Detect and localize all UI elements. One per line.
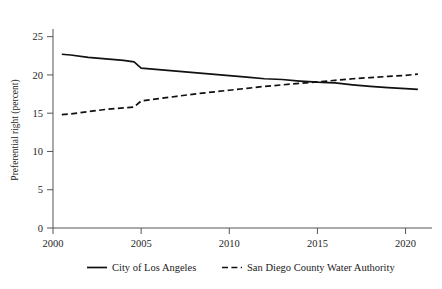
y-tick-label: 10 xyxy=(33,146,44,157)
y-axis-title-group: Preferential right (percent) xyxy=(10,79,21,180)
x-tick-label: 2010 xyxy=(219,238,240,249)
series-line-solid xyxy=(62,54,418,89)
x-tick-label: 2015 xyxy=(307,238,328,249)
y-tick-label: 5 xyxy=(38,184,43,195)
y-axis-ticks: 0510152025 xyxy=(33,31,54,233)
x-tick-label: 2000 xyxy=(43,238,64,249)
x-tick-label: 2005 xyxy=(131,238,152,249)
y-axis-title: Preferential right (percent) xyxy=(10,79,21,180)
x-tick-label: 2020 xyxy=(395,238,416,249)
legend-label: San Diego County Water Authority xyxy=(247,262,395,273)
y-tick-label: 15 xyxy=(33,108,44,119)
y-tick-label: 0 xyxy=(38,223,43,234)
legend-label: City of Los Angeles xyxy=(112,262,196,273)
x-axis-ticks: 20002005201020152020 xyxy=(43,228,417,249)
series-line-dashed xyxy=(62,74,418,115)
series-group xyxy=(62,54,418,114)
chart-canvas: Preferential right (percent) 0510152025 … xyxy=(0,0,442,289)
line-chart: Preferential right (percent) 0510152025 … xyxy=(0,0,442,289)
chart-legend: City of Los AngelesSan Diego County Wate… xyxy=(87,262,395,273)
y-tick-label: 20 xyxy=(33,70,44,81)
y-tick-label: 25 xyxy=(33,31,44,42)
